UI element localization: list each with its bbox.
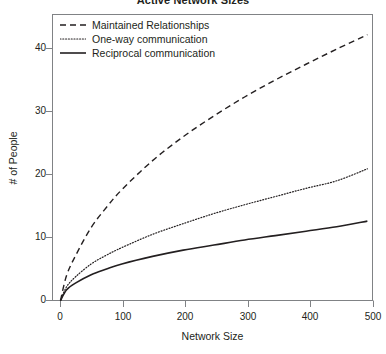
chart-legend: Maintained Relationships One-way communi… [60,18,250,60]
series-line-maintained-relationships [61,35,368,301]
legend-solid-line-icon [60,47,86,59]
legend-item: Maintained Relationships [60,18,250,32]
legend-label: Maintained Relationships [92,19,209,31]
legend-label: One-way communication [92,33,208,45]
series-line-reciprocal-communication [61,221,368,300]
legend-dotted-line-icon [60,33,86,45]
legend-item: Reciprocal communication [60,46,250,60]
legend-item: One-way communication [60,32,250,46]
series-line-one-way-communication [61,169,368,301]
x-axis-ticks [61,301,374,308]
y-axis-ticks [46,49,53,301]
chart-figure: Active Network Sizes # of People Network… [0,0,386,354]
legend-label: Reciprocal communication [92,47,215,59]
legend-dashed-line-icon [60,19,86,31]
